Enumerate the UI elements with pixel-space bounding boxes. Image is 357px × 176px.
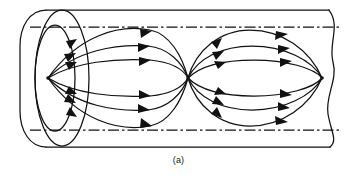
flow-arrowheads-cell-1 [64, 29, 152, 128]
flow-line [48, 46, 188, 78]
flow-arrowhead-icon [214, 61, 226, 69]
center-focus-point [186, 76, 190, 80]
flow-arrowhead-icon [212, 51, 224, 60]
flow-arrowhead-icon [214, 87, 226, 95]
flow-line [48, 78, 188, 127]
flow-arrowhead-icon [212, 96, 224, 105]
flow-arrowhead-icon [280, 58, 292, 67]
flow-arrowhead-icon [280, 89, 292, 98]
flow-arrowhead-icon [139, 57, 151, 66]
figure-root: (a) [0, 0, 357, 176]
flow-lines-cell-2 [188, 30, 322, 126]
figure-caption: (a) [0, 155, 357, 166]
right-focus-point [320, 76, 324, 80]
flow-line [48, 78, 188, 110]
endcap-outer-rim [35, 10, 89, 146]
flow-arrowhead-icon [138, 43, 150, 52]
flow-arrowhead-icon [138, 104, 150, 113]
left-focus-point [46, 76, 50, 80]
focal-points [46, 76, 324, 80]
flow-arrowhead-icon [139, 90, 151, 99]
diagram-ink [20, 10, 340, 147]
flow-line [188, 60, 322, 78]
flow-line [48, 29, 188, 78]
flow-line [188, 78, 322, 96]
flow-line [188, 78, 322, 126]
cylinder-flow-diagram [0, 0, 357, 176]
flow-line [188, 30, 322, 78]
flow-arrowheads-cell-2 [211, 31, 292, 125]
centerlines [30, 27, 340, 130]
cylinder-break-line [328, 10, 335, 147]
cylinder-endcap [20, 10, 89, 147]
